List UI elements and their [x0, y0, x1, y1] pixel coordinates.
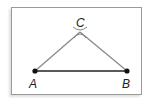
- segment-ac: [35, 32, 80, 71]
- point-b: [124, 68, 129, 73]
- segment-bc: [80, 32, 127, 71]
- construction-arc-2: [74, 34, 86, 38]
- triangle-diagram: A B C: [0, 0, 145, 100]
- label-a: A: [28, 77, 37, 91]
- label-c: C: [76, 16, 85, 30]
- point-a: [32, 68, 37, 73]
- label-b: B: [122, 77, 130, 91]
